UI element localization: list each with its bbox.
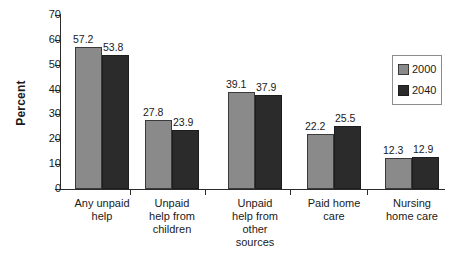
category-label-3: Unpaidhelp fromothersources [210, 197, 300, 249]
y-tick-label: 30 [35, 108, 61, 119]
category-label-line: Nursing [367, 197, 456, 210]
x-axis-line [60, 189, 445, 190]
bar-value-label: 23.9 [173, 117, 193, 128]
x-axis-tick [130, 189, 131, 195]
y-axis-line [60, 14, 61, 190]
category-label-line: help from [210, 210, 300, 223]
bar-chart: Percent 706050403020100 57.253.827.823.9… [0, 0, 456, 262]
bar-value-label: 25.5 [335, 113, 355, 124]
legend: 2000 2040 [392, 55, 442, 105]
x-axis-tick [205, 189, 206, 195]
y-tick-label: 10 [35, 158, 61, 169]
category-label-4: Paid homecare [289, 197, 379, 223]
legend-item-2040: 2040 [398, 83, 436, 97]
bar-value-label: 57.2 [73, 34, 93, 45]
bar-value-label: 37.9 [256, 82, 276, 93]
bar-2040-group-4 [334, 126, 361, 189]
y-tick-label: 40 [35, 84, 61, 95]
bar-value-label: 53.8 [103, 42, 123, 53]
bar-2040-group-5 [412, 157, 439, 189]
category-label-line: help from [127, 210, 217, 223]
legend-label-2000: 2000 [412, 64, 436, 75]
category-label-line: Unpaid [210, 197, 300, 210]
bar-2000-group-3 [228, 92, 255, 189]
y-tick-label: 60 [35, 34, 61, 45]
y-tick-label: 70 [35, 9, 61, 20]
bar-value-label: 12.3 [383, 145, 403, 156]
bar-value-label: 39.1 [226, 79, 246, 90]
category-label-line: Paid home [289, 197, 379, 210]
bar-2000-group-2 [145, 120, 172, 189]
category-label-line: children [127, 223, 217, 236]
category-label-line: sources [210, 236, 300, 249]
bar-value-label: 22.2 [305, 121, 325, 132]
x-axis-tick [290, 189, 291, 195]
category-label-5: Nursinghome care [367, 197, 456, 223]
y-tick-label: 20 [35, 133, 61, 144]
category-label-line: other [210, 223, 300, 236]
legend-item-2000: 2000 [398, 62, 436, 76]
bar-2040-group-3 [255, 95, 282, 189]
category-label-line: Unpaid [127, 197, 217, 210]
light-gray-swatch-icon [398, 64, 409, 75]
x-axis-tick [367, 189, 368, 195]
category-label-line: care [289, 210, 379, 223]
y-tick-label: 50 [35, 59, 61, 70]
bar-2000-group-1 [75, 47, 102, 189]
category-label-2: Unpaidhelp fromchildren [127, 197, 217, 236]
y-tick-label: 0 [35, 183, 61, 194]
bar-2040-group-1 [102, 55, 129, 189]
category-label-line: home care [367, 210, 456, 223]
dark-swatch-icon [398, 85, 409, 96]
bar-value-label: 12.9 [413, 144, 433, 155]
bar-2000-group-5 [385, 158, 412, 189]
legend-label-2040: 2040 [412, 85, 436, 96]
bar-2000-group-4 [307, 134, 334, 189]
bar-2040-group-2 [172, 130, 199, 189]
y-axis-title: Percent [14, 68, 28, 138]
bar-value-label: 27.8 [143, 107, 163, 118]
